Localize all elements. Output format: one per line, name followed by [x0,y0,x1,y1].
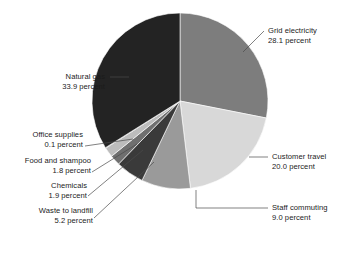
pie-slices [92,13,268,189]
slice-label-value: 0.1 percent [33,140,83,150]
pie-chart: Grid electricity 28.1 percent Customer t… [0,0,357,257]
slice-label-value: 28.1 percent [268,36,317,46]
slice-label-name: Natural gas [62,72,105,82]
slice-label-name: Chemicals [48,181,87,191]
slice-label-natural-gas: Natural gas 33.9 percent [62,72,105,92]
slice-label-staff-commuting: Staff commuting 9.0 percent [272,203,327,223]
slice-label-name: Waste to landfill [39,206,93,216]
slice-label-waste-to-landfill: Waste to landfill 5.2 percent [39,206,93,226]
leader-line-waste-to-landfill [94,162,154,218]
slice-label-chemicals: Chemicals 1.9 percent [48,181,87,201]
slice-label-value: 5.2 percent [39,216,93,226]
slice-label-grid-electricity: Grid electricity 28.1 percent [268,26,317,46]
slice-label-name: Office supplies [33,130,83,140]
slice-label-value: 1.9 percent [48,191,87,201]
slice-label-value: 33.9 percent [62,82,105,92]
slice-label-name: Customer travel [272,152,326,162]
slice-label-value: 20.0 percent [272,162,326,172]
pie-slice-grid-electricity [180,13,268,118]
slice-label-value: 1.8 percent [25,166,91,176]
slice-label-name: Staff commuting [272,203,327,213]
slice-label-customer-travel: Customer travel 20.0 percent [272,152,326,172]
slice-label-food-and-shampoo: Food and shampoo 1.8 percent [25,156,91,176]
slice-label-name: Grid electricity [268,26,317,36]
slice-label-value: 9.0 percent [272,213,327,223]
slice-label-office-supplies: Office supplies 0.1 percent [33,130,83,150]
leader-line-grid-electricity [243,31,264,52]
slice-label-name: Food and shampoo [25,156,91,166]
